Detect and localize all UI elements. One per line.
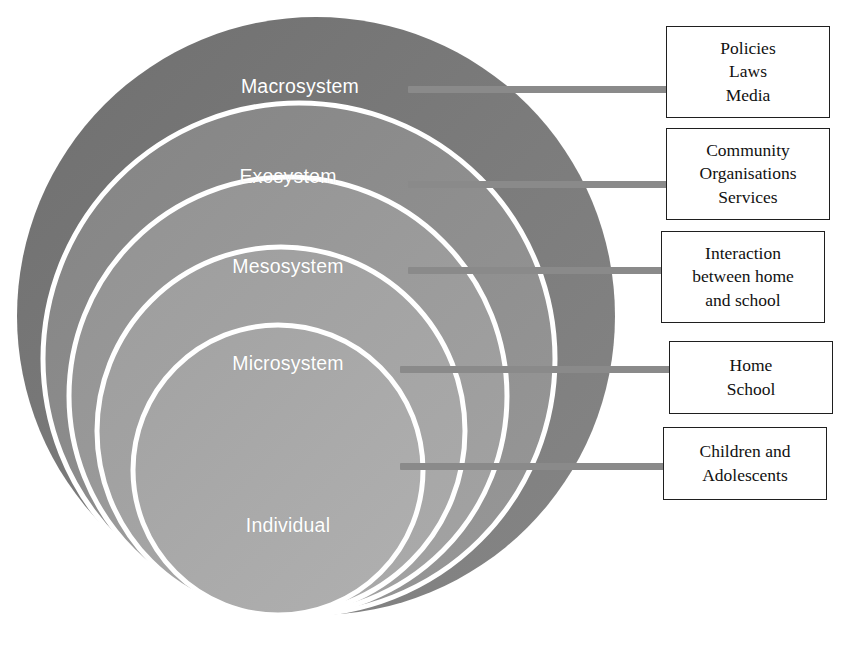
label-line: Media: [726, 84, 771, 107]
connector-mesosystem: [408, 267, 670, 274]
label-line: Interaction: [705, 242, 781, 265]
label-line: and school: [705, 289, 780, 312]
label-line: Adolescents: [702, 464, 788, 487]
label-line: Children and: [700, 440, 791, 463]
connector-macrosystem: [408, 86, 670, 93]
label-box-macrosystem: Policies Laws Media: [666, 26, 830, 118]
label-line: Community: [706, 139, 790, 162]
ring-label-exosystem: Exosystem: [239, 165, 336, 188]
label-line: Policies: [720, 37, 775, 60]
label-box-individual: Children and Adolescents: [663, 427, 827, 500]
label-box-exosystem: Community Organisations Services: [666, 128, 830, 220]
ring-label-macrosystem: Macrosystem: [241, 75, 359, 98]
ring-label-individual: Individual: [246, 514, 330, 537]
label-box-microsystem: Home School: [669, 341, 833, 414]
label-line: Services: [718, 186, 777, 209]
ring-label-mesosystem: Mesosystem: [232, 255, 343, 278]
nested-circles-group: Macrosystem Exosystem Mesosystem Microsy…: [0, 0, 660, 648]
label-box-mesosystem: Interaction between home and school: [661, 231, 825, 323]
label-line: School: [727, 378, 776, 401]
connector-exosystem: [408, 181, 670, 188]
connector-individual: [400, 463, 670, 470]
label-line: Home: [730, 354, 773, 377]
label-line: Organisations: [700, 162, 797, 185]
diagram-canvas: Macrosystem Exosystem Mesosystem Microsy…: [0, 0, 854, 648]
connector-microsystem: [400, 366, 670, 373]
label-line: Laws: [729, 60, 767, 83]
label-line: between home: [692, 265, 794, 288]
ring-label-microsystem: Microsystem: [232, 352, 344, 375]
